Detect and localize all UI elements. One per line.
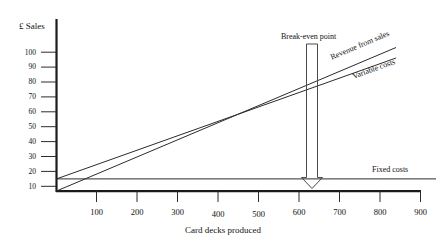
y-tick-label: 30 [11,153,36,161]
x-tick-label: 600 [279,208,319,217]
break-even-point-label: Break-even point [281,33,336,41]
series-line-variable-costs [57,58,397,179]
x-tick-label: 300 [158,208,198,217]
x-tick-label: 500 [239,210,279,219]
x-axis-title: Card decks produced [0,226,446,235]
y-tick-label: 60 [11,108,36,116]
x-tick-label: 400 [198,210,238,219]
x-tick-label: 900 [401,208,441,217]
y-tick-label: 50 [11,123,36,131]
fixed-costs-label: Fixed costs [372,166,408,174]
x-tick-label: 700 [320,208,360,217]
y-tick-label: 90 [11,63,36,71]
y-tick-marks [41,52,56,186]
y-axis-title: £ Sales [19,22,45,31]
y-tick-label: 100 [11,49,36,57]
y-tick-label: 80 [11,78,36,86]
y-tick-label: 20 [11,168,36,176]
break-even-arrow-icon [302,44,323,189]
x-tick-marks [97,191,421,202]
y-tick-label: 70 [11,93,36,101]
series-line-revenue-from-sales [57,48,397,192]
y-tick-label: 10 [11,183,36,191]
x-tick-label: 100 [77,208,117,217]
break-even-chart: £ Sales 100 90 80 70 60 50 40 30 20 10 1… [0,0,446,249]
x-tick-label: 200 [117,208,157,217]
y-tick-label: 40 [11,138,36,146]
x-tick-label: 800 [360,208,400,217]
